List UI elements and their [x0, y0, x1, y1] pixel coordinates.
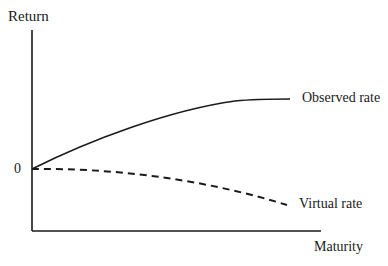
- origin-tick-label: 0: [14, 162, 21, 176]
- term-structure-diagram: Return 0 Observed rate Virtual rate Matu…: [0, 0, 388, 266]
- virtual-rate-curve: [32, 169, 287, 205]
- x-axis-label: Maturity: [314, 240, 363, 254]
- observed-rate-curve: [32, 99, 290, 169]
- observed-rate-label: Observed rate: [302, 91, 380, 105]
- y-axis-label: Return: [8, 9, 49, 24]
- virtual-rate-label: Virtual rate: [299, 197, 362, 211]
- diagram-canvas: [0, 0, 388, 266]
